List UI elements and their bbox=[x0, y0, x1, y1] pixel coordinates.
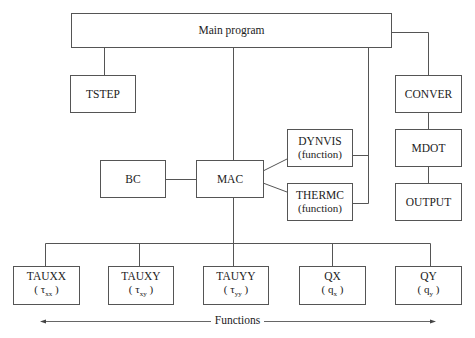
tauyy-label: TAUYY bbox=[216, 270, 255, 283]
qy-label: QY bbox=[420, 270, 437, 283]
tauyy-box: TAUYY ( τyy ) bbox=[203, 266, 269, 305]
conver-box: CONVER bbox=[395, 75, 462, 113]
tauxx-label: TAUXX bbox=[27, 270, 66, 283]
dynvis-sub: (function) bbox=[298, 148, 342, 161]
qy-symbol: ( qy ) bbox=[418, 283, 440, 301]
qx-box: QX ( qx ) bbox=[299, 266, 366, 305]
bc-box: BC bbox=[100, 160, 166, 198]
qy-box: QY ( qy ) bbox=[395, 266, 462, 305]
tauxy-box: TAUXY ( τxy ) bbox=[108, 266, 174, 305]
dynvis-label: DYNVIS bbox=[298, 135, 341, 148]
bc-label: BC bbox=[125, 173, 140, 186]
functions-caption: Functions bbox=[0, 314, 475, 326]
mdot-box: MDOT bbox=[395, 129, 462, 167]
output-label: OUTPUT bbox=[406, 196, 451, 209]
mac-box: MAC bbox=[196, 160, 264, 198]
tauxx-box: TAUXX ( τxx ) bbox=[13, 266, 80, 305]
thermc-box: THERMC (function) bbox=[287, 183, 353, 221]
tauxy-label: TAUXY bbox=[121, 270, 160, 283]
mdot-label: MDOT bbox=[412, 142, 446, 155]
main-program-box: Main program bbox=[71, 13, 392, 48]
tstep-label: TSTEP bbox=[86, 88, 120, 101]
tauyy-symbol: ( τyy ) bbox=[224, 283, 248, 301]
tstep-box: TSTEP bbox=[70, 75, 136, 113]
tauxx-symbol: ( τxx ) bbox=[34, 283, 58, 301]
tauxy-symbol: ( τxy ) bbox=[129, 283, 153, 301]
dynvis-box: DYNVIS (function) bbox=[287, 129, 353, 167]
qx-symbol: ( qx ) bbox=[322, 283, 344, 301]
main-program-label: Main program bbox=[198, 24, 264, 37]
mac-label: MAC bbox=[217, 173, 243, 186]
thermc-sub: (function) bbox=[298, 202, 342, 215]
conver-label: CONVER bbox=[405, 88, 452, 101]
output-box: OUTPUT bbox=[395, 183, 462, 221]
qx-label: QX bbox=[324, 270, 341, 283]
thermc-label: THERMC bbox=[296, 189, 344, 202]
